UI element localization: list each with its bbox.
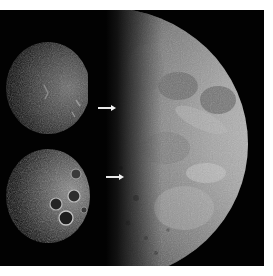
- arrow-upper-icon: [98, 107, 112, 109]
- moon-figure: [0, 10, 264, 266]
- closeup-bottom-image: [4, 146, 90, 246]
- arrow-lower-icon: [106, 176, 120, 178]
- closeup-top-image: [6, 40, 88, 136]
- half-moon-image: [106, 10, 264, 266]
